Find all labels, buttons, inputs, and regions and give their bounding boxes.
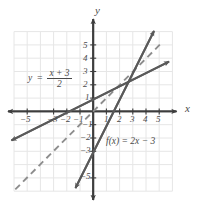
y-axis-label: y — [95, 5, 100, 16]
y-tick-label--2: −2 — [80, 133, 91, 142]
y-tick-label-1: 1 — [85, 93, 90, 102]
x-tick-label-2: 2 — [117, 115, 122, 124]
x-tick-label-1: 1 — [104, 115, 109, 124]
y-tick-label--5: −5 — [80, 172, 91, 181]
axes — [8, 19, 177, 200]
equation-equals: = — [35, 74, 45, 84]
y-tick-label-4: 4 — [83, 54, 88, 63]
x-tick-label--2: −2 — [60, 115, 71, 124]
x-tick-label-5: 5 — [156, 115, 161, 124]
x-axis-label: x — [185, 103, 190, 114]
equation-label-function: f(x) = 2x − 3 — [106, 137, 155, 147]
x-tick-label-4: 4 — [143, 115, 148, 124]
equation-lhs: y — [28, 74, 32, 84]
equation-function-text: f(x) = 2x − 3 — [106, 136, 155, 146]
y-tick-label-3: 3 — [83, 67, 88, 76]
y-tick-label-2: 2 — [83, 80, 88, 89]
coordinate-plane-figure: y x −5 −3 −2 −1 1 2 3 4 5 5 4 3 2 1 −1 −… — [0, 0, 205, 209]
fraction-denominator: 2 — [47, 79, 71, 90]
x-tick-label--3: −3 — [47, 115, 58, 124]
y-tick-label--3: −3 — [80, 146, 91, 155]
x-tick-label-3: 3 — [130, 115, 135, 124]
y-tick-label-5: 5 — [83, 41, 88, 50]
fraction-numerator: x + 3 — [47, 68, 71, 79]
equation-fraction: x + 3 2 — [47, 68, 71, 90]
x-tick-label--5: −5 — [20, 115, 31, 124]
equation-label-inverse: y = x + 3 2 — [28, 68, 72, 90]
y-tick-label--1: −1 — [82, 120, 93, 129]
graph-canvas — [0, 0, 205, 209]
